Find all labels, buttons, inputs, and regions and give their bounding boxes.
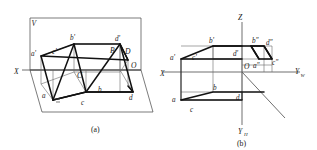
label-d-dprime-b: d" xyxy=(266,39,274,47)
label-d-lower-a: d xyxy=(129,94,133,102)
label-c-prime-b: c' xyxy=(192,54,197,62)
figure-root: V X O a' b' c' d' a b c d B C D (a) xyxy=(0,0,317,150)
label-d-prime-a: d' xyxy=(115,35,121,43)
label-D-a: D xyxy=(124,47,131,56)
top-view-outline-b xyxy=(181,92,264,100)
label-a-prime-a: a' xyxy=(31,50,37,58)
label-b-b: b xyxy=(213,84,217,92)
label-yw-axis-b: Y xyxy=(295,67,300,76)
label-x-axis-a: X xyxy=(13,67,19,76)
solid-edge-b xyxy=(74,44,86,92)
label-b-prime-a: b' xyxy=(70,34,76,42)
label-x-axis-b: X xyxy=(159,69,165,78)
label-yh-subscript-b: H xyxy=(243,132,248,137)
projection-figure-svg: V X O a' b' c' d' a b c d B C D (a) xyxy=(0,0,317,150)
label-origin-b: O xyxy=(244,62,250,71)
panel-a-group: V X O a' b' c' d' a b c d B C D (a) xyxy=(13,18,153,134)
side-view-slant-b xyxy=(251,46,259,59)
label-b-dprime-b: b" xyxy=(252,37,260,45)
caption-panel-b: (b) xyxy=(237,139,246,148)
label-d-b: d xyxy=(236,94,240,102)
solid-slant-2 xyxy=(86,44,120,92)
label-B-a: B xyxy=(110,46,115,55)
caption-panel-a: (a) xyxy=(91,125,100,134)
top-projection-a xyxy=(53,92,133,100)
label-d-prime-b: d' xyxy=(233,50,239,58)
label-a-lower-a: a xyxy=(42,92,46,100)
label-a-prime-b: a' xyxy=(170,54,176,62)
label-origin-a: O xyxy=(131,61,137,70)
h-plane-outline xyxy=(30,70,153,112)
label-b-prime-b: b' xyxy=(209,37,215,45)
label-yw-subscript-b: W xyxy=(301,73,306,78)
label-v-plane: V xyxy=(32,19,38,28)
y-bisector-axis-b xyxy=(242,72,285,118)
label-c-dprime-b: c" xyxy=(272,59,279,67)
label-b-lower-a: b xyxy=(98,86,102,94)
panel-b-group: Z X Y W Y H O a' b' c' d' a b c d b" d" … xyxy=(159,13,306,148)
label-c-prime-a: c' xyxy=(52,48,57,56)
solid-base-edge xyxy=(53,86,133,100)
label-z-axis-b: Z xyxy=(238,13,243,22)
label-c-b: c xyxy=(190,106,194,114)
label-a-dprime-b: a" xyxy=(253,62,261,70)
label-yh-axis-b: Y xyxy=(238,127,243,136)
label-c-lower-a: c xyxy=(81,99,85,107)
label-a-b: a xyxy=(172,96,176,104)
